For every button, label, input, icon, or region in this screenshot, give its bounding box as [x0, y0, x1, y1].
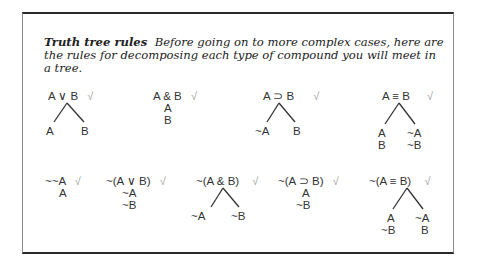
premise: ~~A [45, 175, 65, 187]
premise: ~(A ⊃ B) [278, 175, 323, 187]
stack-line: A [164, 102, 172, 114]
check-mark-icon: √ [333, 175, 339, 187]
left-branch: A [46, 125, 54, 137]
left-branch: ~A [191, 210, 205, 222]
stack-line: A [59, 187, 67, 199]
stack-line: A [302, 187, 310, 199]
right-branch: B [81, 125, 89, 137]
premise: ~(A & B) [196, 175, 239, 187]
check-mark-icon: √ [160, 175, 166, 187]
right-branch-line: ~B [407, 139, 421, 151]
stack-line: ~B [122, 199, 136, 211]
right-branch-line: B [421, 224, 429, 236]
right-branch: ~B [231, 210, 245, 222]
check-mark-icon: √ [252, 175, 258, 187]
left-branch-line: B [378, 139, 386, 151]
stack-line: B [164, 114, 172, 126]
right-branch-line: ~A [407, 127, 421, 139]
premise: ~(A ≡ B) [369, 175, 411, 187]
right-branch-line: ~A [415, 212, 429, 224]
premise: A & B [153, 90, 182, 102]
stack-line: ~A [122, 187, 136, 199]
check-mark-icon: √ [191, 90, 197, 102]
left-branch-line: A [387, 212, 395, 224]
premise: ~(A ∨ B) [106, 175, 150, 187]
right-branch: B [293, 125, 301, 137]
check-mark-icon: √ [75, 175, 81, 187]
check-mark-icon: √ [313, 90, 319, 102]
left-branch: ~A [255, 125, 269, 137]
truth-tree-rules-box: Truth tree rules Before going on to more… [22, 12, 454, 254]
left-branch-line: A [378, 127, 386, 139]
check-mark-icon: √ [427, 90, 433, 102]
premise: A ⊃ B [263, 90, 294, 102]
left-branch-line: ~B [381, 224, 395, 236]
stack-line: ~B [296, 199, 310, 211]
premise: A ∨ B [48, 90, 78, 102]
check-mark-icon: √ [87, 90, 93, 102]
check-mark-icon: √ [424, 175, 430, 187]
premise: A ≡ B [382, 90, 410, 102]
